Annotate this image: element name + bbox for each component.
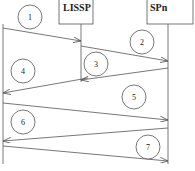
step-marker-5: 5	[122, 85, 146, 109]
svg-text:5: 5	[132, 93, 136, 102]
step-marker-7: 7	[136, 135, 160, 159]
svg-text:7: 7	[146, 143, 150, 152]
participant-lissp-label: LISSP	[63, 2, 91, 13]
participant-spn: SPn	[147, 0, 193, 24]
step-marker-4: 4	[11, 59, 35, 83]
svg-text:6: 6	[21, 118, 25, 127]
step-marker-6: 6	[11, 110, 35, 134]
step-marker-1: 1	[18, 5, 42, 29]
svg-text:2: 2	[140, 38, 144, 47]
svg-text:1: 1	[28, 13, 32, 22]
svg-text:4: 4	[21, 67, 25, 76]
participant-lissp: LISSP	[59, 0, 93, 24]
participant-spn-label: SPn	[150, 2, 168, 13]
message-arrow-1	[3, 28, 81, 41]
sequence-diagram: LISSP SPn 1 2 3 4 5 6 7	[0, 0, 195, 171]
svg-text:3: 3	[94, 60, 98, 69]
step-marker-2: 2	[130, 30, 154, 54]
step-marker-3: 3	[84, 52, 108, 76]
